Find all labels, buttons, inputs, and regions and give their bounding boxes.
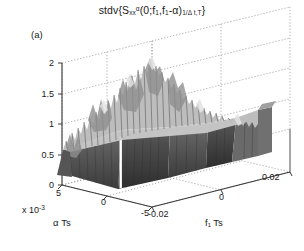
z-multiplier-exponent: -3 xyxy=(39,204,45,211)
f1-tick-neg002: -0.02 xyxy=(148,210,169,219)
z-tick-1p5: 1.5 xyxy=(28,90,54,99)
figure-panel: stdv{Sxxα(0;f1,f1-α)1/Δ t,T} (a) xyxy=(0,0,304,251)
z-tick-0: 0 xyxy=(28,181,54,190)
z-axis-multiplier: x 10-3 xyxy=(22,205,45,215)
surface-right-block xyxy=(258,101,276,156)
z-tick-2: 2 xyxy=(28,59,54,68)
z-tick-1: 1 xyxy=(28,120,54,129)
alpha-axis-label: α Ts xyxy=(53,218,71,228)
f1-tick-002: 0.02 xyxy=(262,173,280,182)
alpha-tick-5: 5 xyxy=(56,189,61,198)
f1-axis-label: f₁ Ts xyxy=(205,218,223,228)
f1-tick-0: 0 xyxy=(219,193,224,202)
alpha-tick-0: 0 xyxy=(101,198,106,207)
surface-left-block xyxy=(57,150,72,177)
z-tick-0p5: 0.5 xyxy=(28,151,54,160)
z-multiplier-base: x 10 xyxy=(22,205,39,215)
